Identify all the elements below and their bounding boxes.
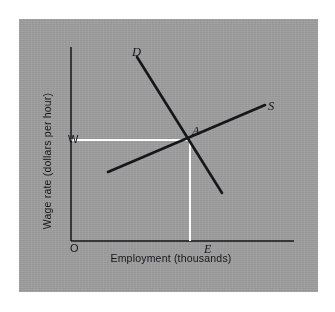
origin-label: O [70,242,79,254]
supply-curve-label: S [268,99,274,114]
equilibrium-point-label: A [192,124,200,139]
diagram-panel: Wage rate (dollars per hour) Employment … [19,19,318,292]
y-tick-label-wage: W [68,133,78,145]
demand-curve [137,57,222,193]
demand-curve-label: D [132,45,141,60]
figure-container: Wage rate (dollars per hour) Employment … [0,0,335,312]
equilibrium-guide-lines [71,140,190,241]
axes [71,47,294,241]
supply-curve [108,105,265,172]
x-tick-label-employment: E [204,242,211,257]
x-axis-title: Employment (thousands) [71,252,271,264]
y-axis-title: Wage rate (dollars per hour) [41,81,53,241]
